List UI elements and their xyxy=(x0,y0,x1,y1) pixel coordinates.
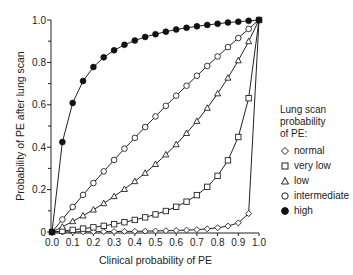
series-line-very-low xyxy=(52,20,259,232)
filled-circle-marker xyxy=(121,42,127,48)
circle-marker xyxy=(111,157,117,163)
square-marker xyxy=(163,208,168,213)
diamond-marker xyxy=(215,225,221,231)
filled-circle-marker xyxy=(173,27,179,33)
legend-item-high: high xyxy=(280,203,353,218)
circle-marker xyxy=(215,54,221,60)
square-marker xyxy=(70,227,75,232)
filled-circle-marker xyxy=(225,20,231,26)
circle-marker xyxy=(142,124,148,130)
square-marker xyxy=(174,204,179,209)
legend-item-low: low xyxy=(280,173,353,188)
square-marker xyxy=(236,134,241,139)
series-line-low xyxy=(52,20,259,232)
filled-circle-marker-icon xyxy=(280,206,290,216)
series-line-intermediate xyxy=(52,20,259,232)
legend-title-line: probability xyxy=(280,116,353,128)
circle-marker xyxy=(60,217,66,223)
filled-circle-marker xyxy=(204,22,210,28)
triangle-marker xyxy=(70,218,76,224)
square-marker xyxy=(132,217,137,222)
filled-circle-marker xyxy=(142,34,148,40)
triangle-marker xyxy=(121,186,127,192)
x-tick-label: 0.1 xyxy=(66,237,80,248)
legend-label: low xyxy=(294,175,309,187)
diamond-marker xyxy=(111,229,117,235)
square-marker xyxy=(225,158,230,163)
circle-marker xyxy=(184,83,190,89)
filled-circle-marker xyxy=(153,31,159,37)
legend-label: high xyxy=(294,205,313,217)
circle-marker xyxy=(246,26,252,32)
y-tick-label: 0.6 xyxy=(32,99,46,110)
triangle-marker xyxy=(246,38,252,44)
legend-item-intermediate: intermediate xyxy=(280,188,353,203)
diamond-marker xyxy=(204,226,210,232)
triangle-marker-icon xyxy=(280,176,290,186)
square-marker xyxy=(215,173,220,178)
circle-marker xyxy=(80,192,86,198)
triangle-marker xyxy=(225,75,231,81)
legend-title-line: Lung scan xyxy=(280,104,353,116)
y-tick-label: 0.2 xyxy=(32,184,46,195)
filled-circle-marker xyxy=(256,17,262,23)
circle-marker xyxy=(70,204,76,210)
legend: Lung scan probability of PE: normal very… xyxy=(280,104,353,218)
diamond-marker-icon xyxy=(280,146,290,156)
filled-circle-marker xyxy=(101,54,107,60)
triangle-marker xyxy=(111,193,117,199)
square-marker xyxy=(91,225,96,230)
legend-item-normal: normal xyxy=(280,143,353,158)
legend-title: Lung scan probability of PE: xyxy=(280,104,353,140)
x-tick-label: 0.4 xyxy=(128,237,142,248)
square-marker xyxy=(111,221,116,226)
diamond-marker xyxy=(194,227,200,233)
legend-title-line: of PE: xyxy=(280,128,353,140)
circle-marker-icon xyxy=(280,191,290,201)
x-tick-label: 0.6 xyxy=(169,237,183,248)
diamond-marker xyxy=(101,229,107,235)
square-marker xyxy=(194,192,199,197)
x-tick-label: 0.5 xyxy=(149,237,163,248)
square-marker-icon xyxy=(280,161,290,171)
filled-circle-marker xyxy=(246,18,252,24)
square-marker xyxy=(142,215,147,220)
x-tick-label: 0.9 xyxy=(231,237,245,248)
x-tick-label: 0.3 xyxy=(107,237,121,248)
series-line-high xyxy=(52,20,259,232)
square-marker xyxy=(184,199,189,204)
y-axis-label: Probability of PE after lung scan xyxy=(14,51,26,201)
circle-marker xyxy=(153,114,159,120)
x-axis-label: Clinical probability of PE xyxy=(99,254,212,266)
circle-marker xyxy=(163,103,169,109)
square-marker xyxy=(205,184,210,189)
filled-circle-marker xyxy=(70,100,76,106)
legend-label: normal xyxy=(294,145,325,157)
square-marker xyxy=(101,223,106,228)
circle-marker xyxy=(132,135,138,141)
circle-marker xyxy=(194,73,200,79)
square-marker xyxy=(80,226,85,231)
series-line-normal xyxy=(52,20,259,232)
square-marker xyxy=(122,220,127,225)
legend-label: very low xyxy=(294,160,331,172)
circle-marker xyxy=(122,146,128,152)
triangle-marker xyxy=(132,178,138,184)
filled-circle-marker xyxy=(111,47,117,53)
legend-item-very-low: very low xyxy=(280,158,353,173)
square-marker xyxy=(246,96,251,101)
filled-circle-marker xyxy=(90,64,96,70)
filled-circle-marker xyxy=(184,25,190,31)
x-tick-label: 0.2 xyxy=(86,237,100,248)
triangle-marker xyxy=(80,212,86,218)
filled-circle-marker xyxy=(215,21,221,27)
filled-circle-marker xyxy=(132,38,138,44)
diamond-marker xyxy=(184,227,190,233)
circle-marker xyxy=(236,35,242,41)
filled-circle-marker xyxy=(235,19,241,25)
filled-circle-marker xyxy=(194,23,200,29)
legend-label: intermediate xyxy=(294,190,349,202)
x-tick-label: 0.0 xyxy=(45,237,59,248)
y-tick-label: 0 xyxy=(40,227,46,238)
y-tick-label: 1.0 xyxy=(32,15,46,26)
